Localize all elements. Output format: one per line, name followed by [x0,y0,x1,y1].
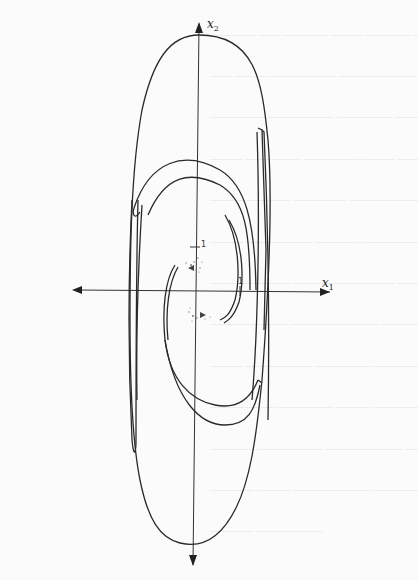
attractor-trajectory [129,35,270,544]
x2-axis [193,24,199,565]
phase-portrait-diagram: x2 x1 1 1 [0,0,418,580]
x2-arrowhead-icon [195,22,203,33]
x1-negative-arrowhead-icon [72,286,82,294]
x1-axis [78,290,330,292]
x1-axis-label: x1 [322,276,334,292]
axes [72,22,330,566]
x2-tick-label: 1 [201,240,206,249]
equilibrium-point-clusters [185,257,210,321]
x2-negative-arrowhead-icon [189,555,197,566]
x2-axis-label: x2 [207,17,219,33]
